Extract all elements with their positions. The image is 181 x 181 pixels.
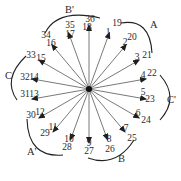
- arrow-label-secondary: 19: [112, 18, 122, 28]
- diagram-canvas: 1836119220321422523624725826927102811291…: [0, 0, 181, 181]
- arrow-label-secondary: 36: [85, 14, 95, 24]
- arrow-label-secondary: 35: [65, 20, 75, 30]
- arrow-label-primary: 12: [35, 107, 45, 117]
- center-hub: [86, 86, 92, 92]
- arrow-label-primary: 6: [136, 108, 141, 118]
- arrow-8: [89, 89, 108, 140]
- arrow-label-secondary: 22: [147, 68, 157, 78]
- arrow-label-primary: 14: [29, 72, 39, 82]
- arrow-label-secondary: 31: [20, 89, 30, 99]
- arrow-label-secondary: 21: [142, 50, 152, 60]
- arrow-label-primary: 4: [141, 70, 146, 80]
- arrow-11: [53, 89, 89, 132]
- arrow-7: [89, 89, 125, 132]
- arrow-label-secondary: 32: [20, 72, 30, 82]
- arrow-label-secondary: 33: [26, 50, 36, 60]
- arrow-label-secondary: 25: [127, 133, 137, 143]
- arrow-2: [89, 45, 126, 89]
- arrow-label-primary: 7: [124, 123, 129, 133]
- radial-arrow-diagram: 1836119220321422523624725826927102811291…: [0, 0, 181, 181]
- arrow-1: [89, 33, 110, 89]
- arrow-label-secondary: 34: [41, 30, 51, 40]
- arrow-label-secondary: 20: [127, 32, 137, 42]
- arrow-label-secondary: 29: [40, 128, 50, 138]
- arrow-label-primary: 8: [107, 134, 112, 144]
- arrow-10: [71, 89, 90, 140]
- arrow-16: [52, 45, 89, 89]
- arrow-label-secondary: 30: [26, 110, 36, 120]
- group-label: C: [5, 70, 12, 81]
- arrow-label-primary: 11: [48, 122, 57, 132]
- arrow-label-primary: 15: [36, 53, 46, 63]
- group-label: A: [150, 19, 158, 30]
- arrow-17: [69, 33, 90, 89]
- arrow-label-secondary: 24: [141, 115, 151, 125]
- group-label: A': [27, 146, 37, 157]
- arrow-label-primary: 17: [65, 29, 75, 39]
- group-label: C': [167, 94, 176, 105]
- arrow-label-secondary: 23: [145, 94, 155, 104]
- arrow-label-primary: 3: [135, 52, 140, 62]
- arrow-label-secondary: 28: [62, 142, 72, 152]
- group-label: B': [65, 4, 74, 15]
- arrow-label-primary: 13: [29, 89, 39, 99]
- arrow-label-primary: 1: [106, 27, 111, 37]
- arrow-label-secondary: 26: [105, 144, 115, 154]
- arrow-label-secondary: 27: [84, 146, 94, 156]
- group-label: B: [118, 153, 125, 164]
